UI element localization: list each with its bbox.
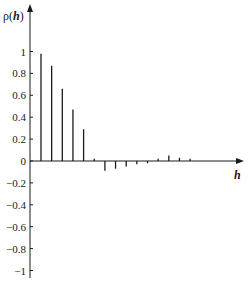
y-axis-ticks: 10.80.60.40.20−0.2−0.4−0.6−0.8−1 — [6, 46, 33, 277]
y-axis-arrow-icon — [27, 4, 33, 12]
chart: 10.80.60.40.20−0.2−0.4−0.6−0.8−1 ρ(h) h — [0, 0, 252, 287]
y-axis-title: ρ(h) — [3, 9, 24, 23]
y-tick-label: 0.8 — [12, 67, 26, 79]
stem-bars — [41, 54, 190, 171]
y-tick-label: −0.6 — [6, 221, 26, 233]
y-tick-label: −0.8 — [6, 243, 26, 255]
y-tick-label: −1 — [14, 265, 26, 277]
y-tick-label: −0.2 — [6, 177, 26, 189]
y-tick-label: 0 — [21, 155, 27, 167]
x-axis-arrow-icon — [236, 158, 244, 164]
y-tick-label: 0.4 — [12, 111, 26, 123]
y-tick-label: −0.4 — [6, 199, 26, 211]
y-tick-label: 0.2 — [12, 133, 26, 145]
x-axis-title: h — [234, 168, 241, 182]
y-tick-label: 0.6 — [12, 89, 26, 101]
y-tick-label: 1 — [21, 46, 27, 58]
